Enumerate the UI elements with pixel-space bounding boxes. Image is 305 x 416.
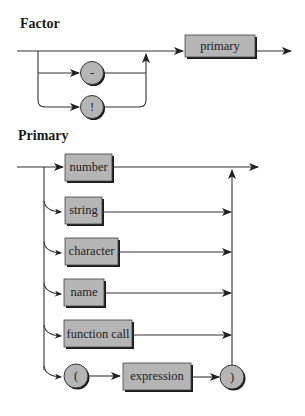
terminal-bang: ! (81, 96, 106, 121)
nonterminal-string-label: string (69, 203, 98, 217)
branch-function-call (44, 325, 61, 336)
primary-title: Primary (18, 128, 69, 143)
branch-name (44, 283, 61, 294)
branch-string (44, 201, 61, 212)
nonterminal-number: number (65, 154, 114, 183)
branch-character (44, 242, 61, 253)
nonterminal-character-label: character (69, 244, 116, 258)
factor-return-up (103, 54, 146, 107)
nonterminal-function-call-label: function call (67, 327, 130, 341)
nonterminal-name: name (64, 279, 106, 308)
terminal-minus: - (81, 62, 106, 87)
nonterminal-primary: primary (185, 35, 257, 59)
syntax-diagram: Factor - ! primary Primary (0, 0, 305, 416)
nonterminal-primary-label: primary (200, 39, 240, 53)
terminal-minus-label: - (90, 66, 94, 80)
branch-paren (44, 366, 61, 377)
factor-title: Factor (20, 16, 60, 31)
terminal-open-paren-label: ( (74, 369, 78, 383)
nonterminal-string: string (65, 197, 104, 226)
terminal-bang-label: ! (90, 100, 94, 114)
terminal-close-paren-label: ) (230, 370, 234, 384)
nonterminal-character: character (65, 238, 120, 267)
terminal-open-paren: ( (64, 364, 90, 390)
primary-diagram: Primary number string character (17, 128, 258, 392)
nonterminal-function-call: function call (64, 320, 134, 349)
nonterminal-expression: expression (123, 363, 193, 392)
nonterminal-name-label: name (70, 285, 98, 299)
terminal-close-paren: ) (220, 365, 246, 391)
nonterminal-expression-label: expression (130, 369, 184, 383)
factor-branch-bang (38, 51, 79, 107)
factor-diagram: Factor - ! primary (17, 16, 291, 120)
nonterminal-number-label: number (69, 160, 108, 174)
